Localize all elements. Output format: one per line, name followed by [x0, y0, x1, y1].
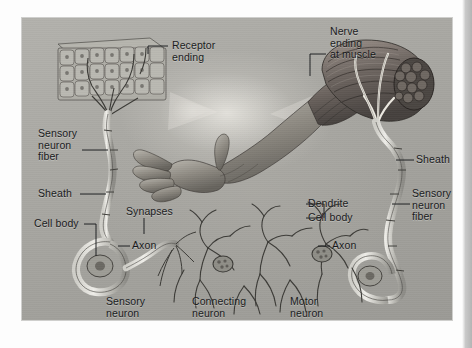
label-sensory-neuron: Sensory neuron: [106, 296, 145, 319]
sensory-neuron-fiber-left: [102, 114, 118, 242]
label-cell-body-left: Cell body: [34, 218, 79, 230]
sensory-neuron-cell-body: [76, 242, 126, 293]
label-sheath-right: Sheath: [416, 154, 450, 166]
label-sheath-left: Sheath: [38, 188, 72, 200]
illustration-artwork: [22, 18, 452, 320]
label-axon-left: Axon: [132, 240, 156, 252]
page-edge-strip: [462, 0, 472, 348]
label-connecting-neuron: Connecting neuron: [192, 296, 246, 319]
illustration-plate: Receptor ending Nerve ending at muscle S…: [22, 18, 452, 320]
label-motor-neuron: Motor neuron: [290, 296, 323, 319]
callout-cone-left: [168, 92, 218, 130]
label-nerve-ending-at-muscle: Nerve ending at muscle: [330, 26, 376, 61]
label-receptor-ending: Receptor ending: [172, 40, 215, 63]
label-axon-right: Axon: [332, 240, 356, 252]
receptor-tissue-block: [58, 38, 166, 115]
label-dendrite: Dendrite: [308, 198, 349, 210]
reflex-arc-figure: Receptor ending Nerve ending at muscle S…: [0, 0, 472, 348]
label-sensory-neuron-fiber-left: Sensory neuron fiber: [38, 128, 77, 163]
label-cell-body-right: Cell body: [308, 212, 353, 224]
label-sensory-neuron-fiber-right: Sensory neuron fiber: [412, 188, 451, 223]
label-synapses: Synapses: [126, 206, 173, 218]
motor-neuron-fiber-right: [352, 122, 406, 300]
